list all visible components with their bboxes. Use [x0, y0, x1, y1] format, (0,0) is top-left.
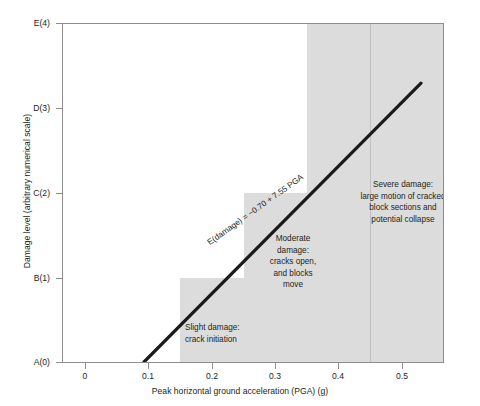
x-tick-0p1 [148, 363, 149, 369]
y-tick-3 [56, 108, 63, 109]
x-tick-label-0p2: 0.2 [192, 371, 232, 381]
y-axis-title: Damage level (arbitrary numerical scale) [22, 81, 32, 301]
y-tick-1 [56, 278, 63, 279]
x-tick-label-0p4: 0.4 [318, 371, 358, 381]
x-tick-0 [85, 363, 86, 369]
annotation-moderate-damage: Moderate damage: cracks open, and blocks… [249, 233, 337, 291]
x-tick-0p4 [338, 363, 339, 369]
plot-area: E(damage) = −0.70 + 7.55 PGA Slight dama… [62, 23, 444, 363]
x-tick-label-0p1: 0.1 [128, 371, 168, 381]
x-tick-label-0p5: 0.5 [382, 371, 422, 381]
x-tick-label-0p3: 0.3 [255, 371, 295, 381]
y-tick-2 [56, 193, 63, 194]
annotation-severe-damage: Severe damage: large motion of cracked b… [342, 179, 444, 225]
annotation-slight-damage: Slight damage: crack initiation [185, 322, 285, 345]
x-tick-label-0: 0 [65, 371, 105, 381]
y-tick-label-4: E(4) [10, 18, 50, 28]
y-tick-4 [56, 23, 63, 24]
x-tick-0p2 [212, 363, 213, 369]
y-tick-label-0: A(0) [10, 357, 50, 367]
damage-level-vs-pga-chart: E(damage) = −0.70 + 7.55 PGA Slight dama… [0, 0, 480, 406]
x-tick-0p3 [275, 363, 276, 369]
x-axis-title: Peak horizontal ground acceleration (PGA… [0, 386, 480, 396]
y-tick-0 [56, 362, 63, 363]
x-tick-0p5 [402, 363, 403, 369]
